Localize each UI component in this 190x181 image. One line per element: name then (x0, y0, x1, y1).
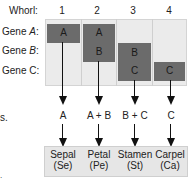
whorl-number-3: 3 (127, 5, 139, 16)
gene-a-label: Gene A: (2, 26, 39, 38)
gene-a-box-label: A (47, 27, 80, 38)
organ-name: Carpel (150, 149, 190, 160)
gene-c-box-whorl-4: C (154, 62, 185, 81)
organ-name: Sepal (43, 149, 83, 160)
combination-whorl-1: A (43, 110, 83, 121)
gene-bc-box-whorl-3: B C (118, 43, 151, 81)
combination-whorl-4: C (151, 110, 190, 121)
gene-b-name: B (29, 45, 36, 56)
arrow-down-icon (59, 96, 67, 105)
organ-abbr: (Se) (43, 160, 83, 171)
gene-a-box-label: A (83, 27, 115, 38)
arrow-line-whorl-1 (62, 42, 63, 98)
whorl-number-2: 2 (91, 5, 103, 16)
gene-c-box-label: C (154, 65, 185, 76)
arrow-down-icon (167, 96, 175, 105)
whorl-number-4: 4 (163, 5, 175, 16)
whorl-label: Whorl: (9, 5, 38, 17)
gene-a-box-whorl-1: A (47, 24, 80, 43)
organ-stamen: Stamen (St) (115, 149, 155, 171)
arrow-down-icon (95, 96, 103, 105)
gene-a-prefix: Gene (2, 26, 29, 37)
organ-petal: Petal (Pe) (79, 149, 119, 171)
organ-sepal: Sepal (Se) (43, 149, 83, 171)
gene-b-box-label: B (118, 47, 151, 58)
organ-abbr: (St) (115, 160, 155, 171)
cropped-mark-fragment: . (0, 170, 2, 181)
combination-whorl-2: A + B (79, 110, 119, 121)
arrow-line-whorl-2 (98, 61, 99, 98)
organ-name: Stamen (115, 149, 155, 160)
gene-b-box-label: B (83, 46, 115, 57)
whorl-number-1: 1 (56, 5, 68, 16)
gene-b-suffix: : (36, 45, 39, 56)
cropped-text-fragment: s. (0, 112, 8, 124)
column-divider (152, 19, 153, 86)
gene-a-name: A (29, 26, 36, 37)
column-divider (81, 19, 82, 86)
organ-abbr: (Ca) (150, 160, 190, 171)
combination-whorl-3: B + C (115, 110, 155, 121)
gene-c-label: Gene C: (2, 65, 39, 77)
gene-c-box-label: C (118, 65, 151, 76)
organ-name: Petal (79, 149, 119, 160)
gene-a-suffix: : (36, 26, 39, 37)
organ-carpel: Carpel (Ca) (150, 149, 190, 171)
gene-ab-box-whorl-2: A B (83, 24, 115, 62)
organ-abbr: (Pe) (79, 160, 119, 171)
column-divider (116, 19, 117, 86)
gene-b-prefix: Gene (2, 45, 29, 56)
arrow-down-icon (131, 96, 139, 105)
gene-b-label: Gene B: (2, 45, 39, 57)
